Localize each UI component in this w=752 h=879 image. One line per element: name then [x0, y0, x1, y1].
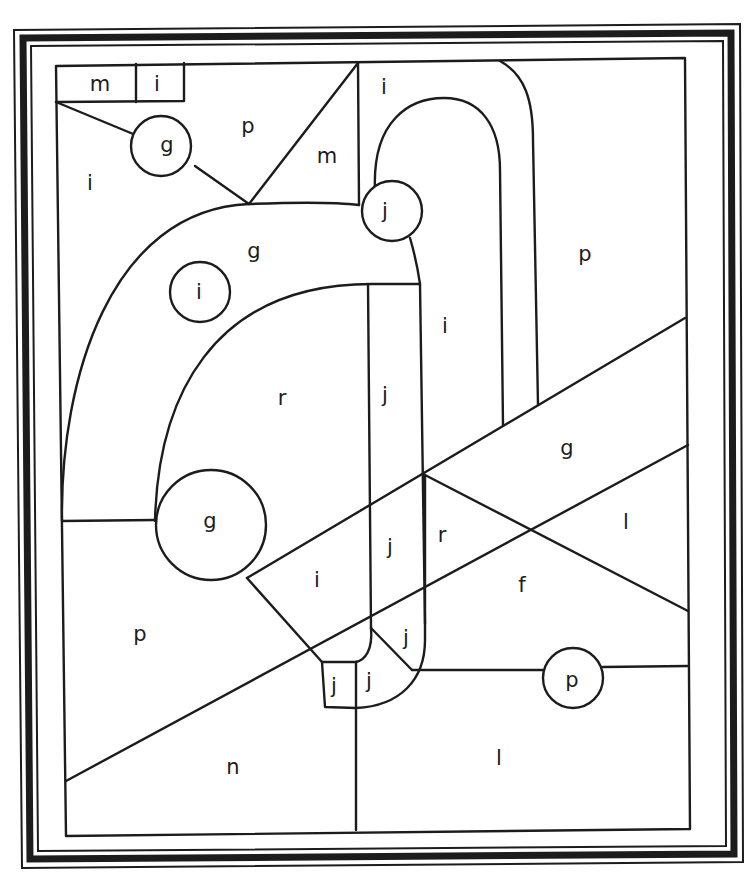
region-label-r21: f — [518, 573, 526, 597]
region-label-r17: j — [386, 535, 393, 559]
region-label-r6: m — [317, 144, 337, 168]
region-label-r2: i — [154, 72, 160, 96]
region-label-r3: p — [241, 114, 254, 138]
region-label-r10: g — [247, 239, 260, 263]
region-label-r12: i — [442, 314, 448, 338]
region-label-r7: i — [381, 75, 387, 99]
region-label-r15: g — [560, 436, 573, 460]
region-label-r1: m — [90, 72, 110, 96]
region-label-r26: j — [365, 669, 372, 693]
region-label-r19: l — [623, 510, 629, 534]
puzzle-canvas: mipgimijpgiirjggjrlifpjpjjnl — [0, 0, 752, 879]
region-label-r27: n — [226, 755, 239, 779]
region-label-r18: r — [438, 523, 447, 547]
region-label-r9: p — [578, 242, 591, 266]
region-label-r28: l — [496, 746, 502, 770]
region-label-r16: g — [203, 509, 216, 533]
region-label-r24: p — [565, 668, 578, 692]
region-label-r8: j — [381, 199, 388, 223]
region-label-r11: i — [196, 280, 202, 304]
region-label-r14: j — [381, 383, 388, 407]
region-label-r5: i — [87, 171, 93, 195]
region-label-r23: j — [402, 626, 409, 650]
region-label-r22: p — [133, 622, 146, 646]
region-label-r25: j — [330, 674, 337, 698]
region-lines — [56, 61, 688, 830]
region-label-r20: i — [314, 568, 320, 592]
region-label-r13: r — [278, 386, 287, 410]
puzzle-page: mipgimijpgiirjggjrlifpjpjjnl — [0, 0, 752, 879]
region-label-r4: g — [160, 133, 173, 157]
